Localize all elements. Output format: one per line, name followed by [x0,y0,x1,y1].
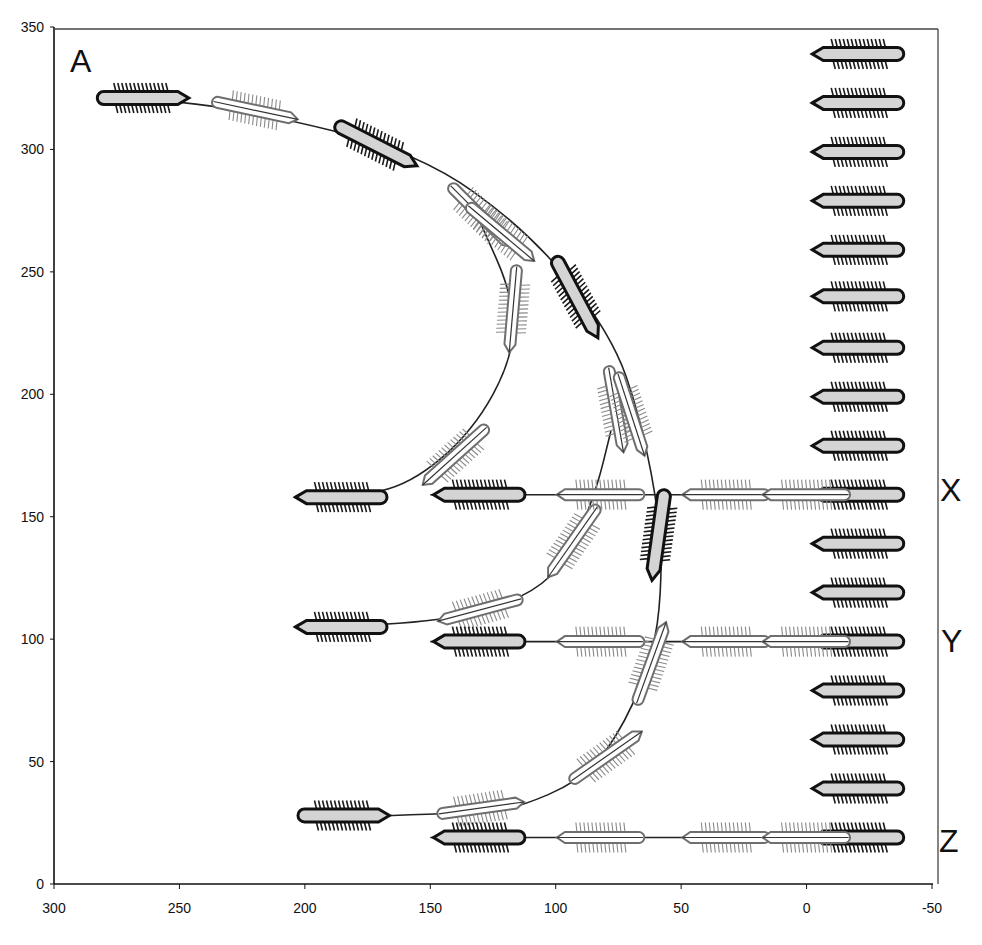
row-Y-cell [557,627,645,657]
A-path-cell [298,800,390,830]
upper-loop-cell [494,264,532,354]
x-tick-label: 50 [673,900,689,916]
upper-loop-cell [295,482,387,512]
trajectory-paths [142,98,661,818]
A-path-cell [622,617,680,709]
A-path-cell [637,488,679,583]
stationary-cell [812,725,904,755]
x-tick-label: 300 [42,900,66,916]
A-path-cell [329,111,424,179]
stationary-cell [812,676,904,706]
y-axis-ticks: 050100150200250300350 [21,19,54,892]
stationary-cell [812,186,904,216]
stationary-cell [812,281,904,311]
stationary-cell [812,235,904,265]
x-tick-label: 200 [293,900,317,916]
stationary-cell [812,382,904,412]
x-tick-label: 100 [544,900,568,916]
row-label-x: X [940,472,961,508]
y-tick-label: 50 [28,754,44,770]
axes-frame [54,27,938,884]
row-Z-cell [557,822,645,852]
middle-loop-cell [295,612,387,642]
x-tick-label: 150 [419,900,443,916]
A-path-line [142,98,661,818]
A-path-cell [209,87,301,135]
stationary-cell [812,529,904,559]
y-tick-label: 200 [21,386,45,402]
stationary-cell [812,137,904,167]
row-Y-cell [433,627,525,657]
row-X-cell [682,480,770,510]
upper-loop-line [350,223,513,497]
stationary-cell [812,333,904,363]
A-path-cell [458,193,544,272]
row-Y-cell [682,627,770,657]
y-tick-label: 350 [21,19,45,35]
panel-label: A [70,43,92,79]
x-tick-label: 250 [168,900,192,916]
middle-loop-cell [536,497,611,586]
x-axis-ticks: 300250200150100500-50 [42,884,942,916]
A-path-cell [562,719,651,794]
A-path-cell [97,83,189,113]
y-tick-label: 300 [21,141,45,157]
stationary-cell [812,578,904,608]
row-Z-cell [682,822,770,852]
trajectory-diagram: 050100150200250300350 300250200150100500… [0,0,982,945]
y-tick-label: 0 [36,876,44,892]
stationary-cell [812,774,904,804]
row-label-y: Y [941,623,962,659]
A-path-cell [542,250,611,345]
row-label-z: Z [939,823,959,859]
row-X-cell [557,480,645,510]
x-tick-label: -50 [922,900,942,916]
cells-layer [97,39,903,853]
y-tick-label: 250 [21,264,45,280]
x-tick-label: 0 [803,900,811,916]
stationary-cell [812,88,904,118]
y-tick-label: 150 [21,509,45,525]
stationary-cell [812,39,904,69]
row-Z-cell [433,822,525,852]
y-tick-label: 100 [21,631,45,647]
stationary-cell [812,431,904,461]
row-X-cell [433,480,525,510]
